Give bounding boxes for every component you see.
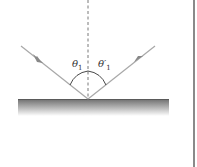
- reflected-angle-label: θ′1: [98, 59, 111, 72]
- reflected-ray: [88, 46, 155, 99]
- incident-angle-arc: [70, 71, 88, 85]
- diagram-canvas: [0, 0, 197, 167]
- reflecting-surface: [18, 99, 169, 116]
- incident-ray: [21, 46, 88, 99]
- incident-angle-label: θ1: [72, 59, 83, 72]
- reflection-diagram: θ1 θ′1: [0, 0, 197, 167]
- reflected-angle-arc: [88, 71, 106, 85]
- vertical-divider: [193, 0, 195, 167]
